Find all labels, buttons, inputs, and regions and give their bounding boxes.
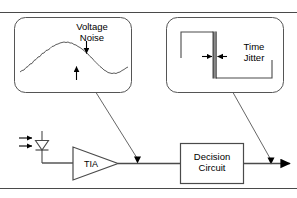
- jitter-edge-line-right: [215, 32, 216, 79]
- photodiode-triangle: [36, 141, 49, 151]
- decision-circuit-label-line1: Decision: [194, 151, 230, 162]
- time-jitter-label: TimeJitter: [230, 42, 278, 63]
- voltage-noise-leader-arrowhead: [134, 157, 141, 164]
- voltage-noise-label-line1: Voltage: [76, 21, 108, 32]
- time-jitter-label-line1: Time: [244, 41, 265, 52]
- voltage-noise-leader-line: [96, 93, 137, 159]
- decision-circuit-label: DecisionCircuit: [181, 152, 243, 173]
- tia-label: TIA: [76, 159, 106, 169]
- voltage-noise-label-line2: Noise: [80, 32, 104, 43]
- decision-circuit-label-line2: Circuit: [199, 162, 226, 173]
- photodiode: [19, 131, 49, 163]
- jitter-edge-band: [214, 32, 216, 79]
- figure-canvas: VoltageNoise TimeJitter TIA DecisionCirc…: [0, 0, 297, 198]
- diagram-vector-layer: [0, 0, 297, 198]
- voltage-noise-label: VoltageNoise: [64, 22, 120, 43]
- jitter-edge-line-left: [213, 32, 214, 79]
- time-jitter-label-line2: Jitter: [244, 52, 265, 63]
